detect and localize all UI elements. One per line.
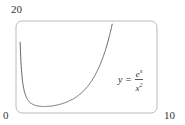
equation-lhs: y = <box>118 74 132 85</box>
equation-denominator: x2 <box>136 80 143 93</box>
equation-fraction: ex x2 <box>135 66 144 93</box>
plot-area <box>0 0 185 125</box>
curve-e-x-over-x-squared <box>20 24 112 107</box>
equation-label: y = ex x2 <box>118 66 143 93</box>
equation-numerator: ex <box>135 66 144 80</box>
